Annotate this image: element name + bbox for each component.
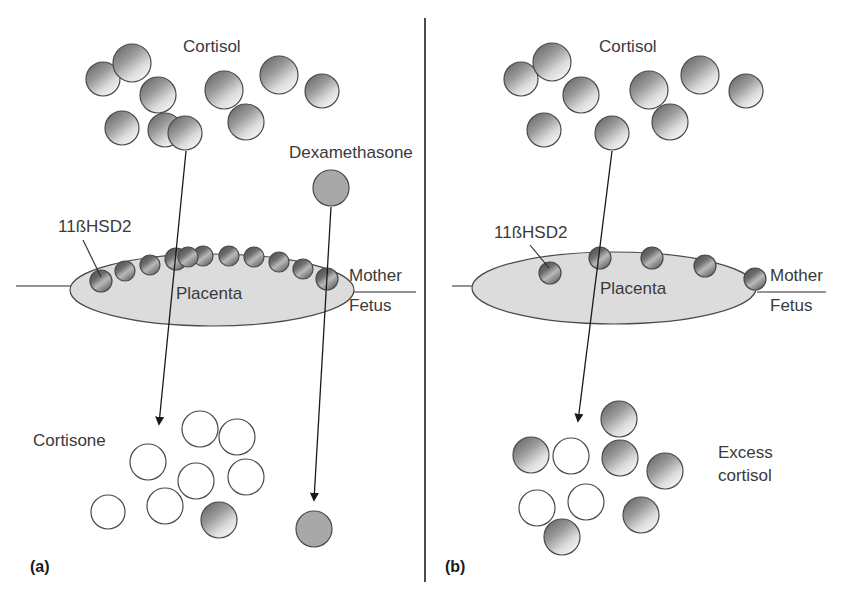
fetal-molecule-1 — [601, 401, 637, 437]
panel-b-label-placenta: Placenta — [600, 279, 667, 298]
panel-b-label-11bhsd2: 11ßHSD2 — [494, 223, 567, 242]
enzyme-sphere-3 — [641, 247, 663, 269]
fetal-molecule-5 — [647, 453, 683, 489]
cortisol-molecule-4 — [527, 113, 561, 147]
cortisone-molecule-5 — [228, 459, 264, 495]
cortisone-molecule-2 — [219, 419, 255, 455]
enzyme-sphere-3 — [140, 255, 160, 275]
panel-b-letter: (b) — [445, 558, 465, 575]
panel-b-transported-cortisol-molecule — [595, 116, 629, 150]
cortisone-molecule-8 — [201, 502, 237, 538]
panel-b: Cortisol 11ßHSD2 Placenta Mother Fetus E… — [445, 37, 826, 575]
enzyme-sphere-5 — [744, 268, 766, 290]
fetal-molecule-3 — [553, 438, 589, 474]
enzyme-sphere-7 — [244, 247, 264, 267]
cortisol-molecule-9 — [305, 74, 339, 108]
panel-b-label-excess-cortisol: cortisol — [718, 466, 772, 485]
panel-a-transported-cortisol-molecule — [168, 116, 202, 150]
cortisone-molecule-4 — [178, 463, 214, 499]
fetal-molecule-9 — [544, 519, 580, 555]
panel-b-fetal-mixed-pool — [513, 401, 683, 555]
enzyme-sphere-11 — [178, 247, 198, 267]
cortisone-molecule-6 — [91, 495, 125, 529]
cortisone-molecule-1 — [182, 411, 218, 447]
cortisol-molecule-3 — [563, 77, 599, 113]
panel-b-label-mother: Mother — [770, 266, 823, 285]
enzyme-sphere-1 — [90, 270, 112, 292]
enzyme-sphere-2 — [115, 261, 135, 281]
placenta-barrier-diagram: Cortisol Dexamethasone 11ßHSD2 Placenta … — [0, 0, 842, 600]
panel-a-fetal-dexamethasone-molecule — [296, 511, 332, 547]
panel-a-label-cortisone: Cortisone — [33, 431, 106, 450]
enzyme-sphere-6 — [219, 246, 239, 266]
figure-root: Cortisol Dexamethasone 11ßHSD2 Placenta … — [0, 0, 842, 600]
fetal-molecule-2 — [513, 437, 549, 473]
enzyme-sphere-8 — [269, 252, 289, 272]
cortisol-molecule-5 — [630, 71, 668, 109]
fetal-molecule-4 — [602, 440, 638, 476]
panel-a-letter: (a) — [30, 558, 50, 575]
panel-a-maternal-cortisol-pool — [86, 44, 339, 147]
cortisol-molecule-1 — [504, 62, 538, 96]
cortisol-molecule-2 — [533, 43, 571, 81]
panel-a-label-cortisol: Cortisol — [183, 37, 241, 56]
panel-a-label-mother: Mother — [349, 266, 402, 285]
panel-a-label-fetus: Fetus — [349, 296, 392, 315]
cortisol-molecule-2 — [113, 44, 151, 82]
panel-b-maternal-cortisol-pool — [504, 43, 763, 147]
cortisol-molecule-8 — [729, 74, 763, 108]
panel-a-label-11bhsd2: 11ßHSD2 — [58, 217, 131, 236]
panel-a-fetal-cortisone-pool — [91, 411, 264, 538]
panel-b-label-cortisol: Cortisol — [599, 37, 657, 56]
panel-a: Cortisol Dexamethasone 11ßHSD2 Placenta … — [16, 37, 416, 575]
enzyme-sphere-4 — [694, 255, 716, 277]
fetal-molecule-6 — [519, 490, 555, 526]
cortisone-molecule-3 — [130, 444, 166, 480]
panel-a-label-dexamethasone: Dexamethasone — [289, 143, 413, 162]
enzyme-sphere-9 — [293, 259, 313, 279]
cortisone-molecule-7 — [147, 488, 183, 524]
fetal-molecule-8 — [623, 497, 659, 533]
panel-a-label-placenta: Placenta — [176, 284, 243, 303]
panel-b-label-fetus: Fetus — [770, 296, 813, 315]
enzyme-sphere-1 — [539, 262, 561, 284]
fetal-molecule-7 — [568, 484, 604, 520]
cortisol-molecule-3 — [140, 77, 176, 113]
panel-b-label-excess: Excess — [718, 443, 773, 462]
cortisol-molecule-7 — [228, 104, 264, 140]
cortisol-molecule-8 — [260, 56, 298, 94]
cortisol-molecule-6 — [652, 104, 688, 140]
cortisol-molecule-6 — [205, 71, 243, 109]
panel-a-dexamethasone-molecule — [313, 170, 349, 206]
panel-a-dexamethasone-crossing-arrow — [314, 207, 331, 500]
cortisol-molecule-5 — [105, 111, 139, 145]
cortisol-molecule-7 — [681, 56, 719, 94]
